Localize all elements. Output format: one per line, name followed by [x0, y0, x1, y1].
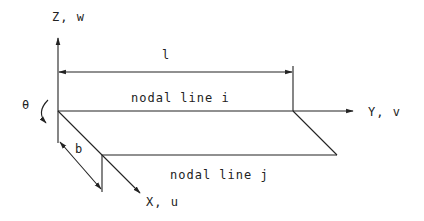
x-axis [58, 111, 140, 193]
width-label: b [75, 142, 83, 156]
nodal-line-i-label: nodal line i [131, 91, 230, 105]
x-axis-label: X, u [146, 195, 179, 209]
strip-end-edge [293, 111, 337, 155]
z-axis-label: Z, w [52, 10, 85, 24]
rotation-label: θ [22, 98, 30, 112]
length-label: l [162, 48, 170, 62]
rotation-arrow-icon [41, 100, 48, 123]
nodal-line-j-label: nodal line j [170, 168, 269, 182]
y-axis-label: Y, v [368, 105, 401, 119]
strip-diagram: Z, w Y, v X, u θ l b nodal line i nodal … [0, 0, 424, 221]
